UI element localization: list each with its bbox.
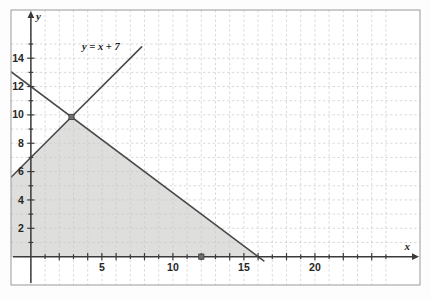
y-tick-label: 14 bbox=[12, 52, 24, 64]
y-tick-label: 2 bbox=[18, 222, 24, 234]
x-tick-label: 20 bbox=[309, 261, 321, 273]
y-tick-label: 4 bbox=[18, 194, 24, 206]
coordinate-plane: 51015202468101214xyy = x + 7 bbox=[0, 0, 431, 300]
equation-label: y = x + 7 bbox=[80, 41, 120, 52]
x-intercept-point bbox=[199, 254, 204, 259]
x-tick-label: 5 bbox=[99, 261, 105, 273]
graph-figure: 51015202468101214xyy = x + 7 bbox=[0, 0, 431, 300]
x-tick-label: 15 bbox=[238, 261, 250, 273]
y-tick-label: 8 bbox=[18, 137, 24, 149]
y-axis-label: y bbox=[34, 10, 41, 22]
x-axis-label: x bbox=[404, 240, 411, 252]
y-tick-label: 10 bbox=[12, 108, 24, 120]
intersection-point bbox=[69, 114, 74, 119]
y-tick-label: 6 bbox=[18, 165, 24, 177]
x-tick-label: 10 bbox=[167, 261, 179, 273]
y-tick-label: 12 bbox=[12, 80, 24, 92]
